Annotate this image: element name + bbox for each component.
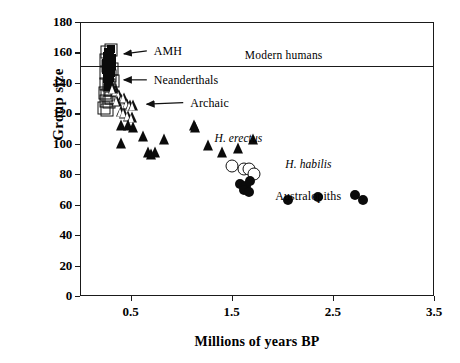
data-point-archaic (128, 100, 138, 111)
data-point-h-erectus (150, 147, 160, 158)
y-tick-label: 60 (59, 197, 72, 213)
data-point-h-erectus (159, 133, 169, 144)
y-tick-label: 100 (53, 136, 72, 152)
modern-humans-reference-line (81, 66, 433, 67)
data-point-h-erectus (217, 147, 227, 158)
x-tick-label: 0.5 (122, 304, 138, 320)
y-tick-label: 20 (59, 258, 72, 274)
h-habilis-label: H. habilis (285, 158, 331, 170)
amh-label: AMH (154, 44, 182, 59)
y-tick-label: 140 (53, 75, 72, 91)
data-point-amh (107, 45, 115, 53)
y-tick-label: 180 (53, 14, 72, 30)
x-tick-mark (434, 296, 435, 301)
triangle-inner (109, 86, 115, 94)
data-point-h-erectus (203, 139, 213, 150)
data-point-australopiths (245, 176, 255, 186)
x-tick-mark (232, 296, 233, 301)
modern-humans-label: Modern humans (245, 49, 323, 61)
data-point-h-habilis (225, 160, 238, 173)
data-point-australopiths (244, 187, 254, 197)
scatter-chart-figure: Group size Millions of years BP 02040608… (0, 0, 460, 363)
x-tick-label: 1.5 (224, 304, 240, 320)
y-tick-mark (75, 296, 80, 297)
data-point-h-erectus (138, 130, 148, 141)
data-point-h-erectus (128, 121, 138, 132)
plot-area: Modern humans AMHNeanderthalsArchaicH. e… (80, 22, 434, 296)
y-tick-label: 40 (59, 227, 72, 243)
y-tick-label: 80 (59, 166, 72, 182)
h-erectus-label: H. erectus (215, 132, 263, 144)
data-point-amh (108, 62, 116, 70)
australopiths-label: Australopiths (275, 189, 341, 204)
x-axis-title: Millions of years BP (80, 334, 434, 350)
data-point-australopiths (358, 195, 368, 205)
archaic-label: Archaic (190, 96, 229, 111)
neanderthals-label: Neanderthals (154, 73, 219, 88)
data-point-archaic (108, 83, 118, 94)
x-tick-label: 3.5 (426, 304, 442, 320)
y-tick-label: 160 (53, 44, 72, 60)
y-tick-label: 120 (53, 105, 72, 121)
triangle-inner (113, 98, 119, 106)
x-tick-mark (333, 296, 334, 301)
data-point-archaic (112, 95, 122, 106)
y-tick-label: 0 (66, 288, 72, 304)
data-point-h-erectus (116, 138, 126, 149)
x-tick-label: 2.5 (325, 304, 341, 320)
x-tick-mark (131, 296, 132, 301)
triangle-inner (129, 102, 135, 110)
data-point-h-erectus (190, 121, 200, 132)
